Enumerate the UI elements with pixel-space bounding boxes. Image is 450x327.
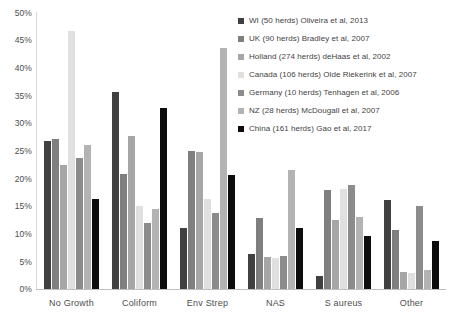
legend-swatch-icon xyxy=(238,126,244,132)
legend-swatch-icon xyxy=(238,72,244,78)
bar xyxy=(384,200,391,289)
legend-swatch-icon xyxy=(238,18,244,24)
bar xyxy=(432,241,439,289)
legend-label: Holland (274 herds) deHaas et al, 2002 xyxy=(249,52,391,61)
legend-item: Germany (10 herds) Tenhagen et al, 2006 xyxy=(238,84,448,101)
y-tick-label: 15% xyxy=(15,202,32,211)
y-tick-label: 0% xyxy=(20,285,33,294)
bar xyxy=(204,199,211,289)
bar xyxy=(356,217,363,289)
bar xyxy=(76,158,83,289)
bar xyxy=(332,220,339,289)
y-tick-label: 25% xyxy=(15,147,32,156)
bar xyxy=(188,151,195,290)
bar xyxy=(416,206,423,289)
bar xyxy=(348,185,355,289)
bar xyxy=(44,141,51,289)
bar xyxy=(228,175,235,289)
bar xyxy=(280,256,287,289)
y-tick-label: 20% xyxy=(15,175,32,184)
bar xyxy=(160,108,167,289)
legend-label: China (161 herds) Gao et al, 2017 xyxy=(249,124,372,133)
bar xyxy=(272,258,279,289)
legend-swatch-icon xyxy=(238,108,244,114)
legend-item: NZ (28 herds) McDougall et al, 2007 xyxy=(238,102,448,119)
bar xyxy=(288,170,295,289)
y-tick-label: 45% xyxy=(15,36,32,45)
bar xyxy=(340,189,347,289)
bar xyxy=(316,276,323,289)
bar xyxy=(144,223,151,289)
bar xyxy=(112,92,119,289)
y-tick-label: 40% xyxy=(15,64,32,73)
bar xyxy=(220,48,227,289)
legend-label: WI (50 herds) Oliveira et al, 2013 xyxy=(249,16,368,25)
y-tick-label: 10% xyxy=(15,230,32,239)
bar xyxy=(92,199,99,289)
bar xyxy=(424,270,431,289)
bar xyxy=(136,206,143,289)
bar xyxy=(248,254,255,289)
legend-swatch-icon xyxy=(238,90,244,96)
bar xyxy=(60,165,67,289)
bar xyxy=(196,152,203,289)
bar xyxy=(400,272,407,289)
legend-label: Canada (106 herds) Olde Riekerink et al,… xyxy=(249,70,417,79)
bar xyxy=(128,136,135,289)
y-tick-label: 30% xyxy=(15,119,32,128)
y-tick-label: 35% xyxy=(15,92,32,101)
bar xyxy=(364,236,371,289)
bar-chart: 50% 45% 40% 35% 30% 25% 20% 15% 10% 5% 0… xyxy=(0,0,450,327)
legend-item: WI (50 herds) Oliveira et al, 2013 xyxy=(238,12,448,29)
bar xyxy=(84,145,91,289)
x-tick-label-other: Other xyxy=(367,298,450,308)
y-axis: 50% 45% 40% 35% 30% 25% 20% 15% 10% 5% 0… xyxy=(0,0,34,300)
bar xyxy=(296,228,303,289)
bar xyxy=(264,257,271,289)
legend-item: Holland (274 herds) deHaas et al, 2002 xyxy=(238,48,448,65)
legend-item: UK (90 herds) Bradley et al, 2007 xyxy=(238,30,448,47)
legend-label: UK (90 herds) Bradley et al, 2007 xyxy=(249,34,369,43)
bar xyxy=(120,174,127,289)
x-axis-line xyxy=(36,289,446,290)
bar xyxy=(68,31,75,289)
bar xyxy=(212,213,219,289)
bar xyxy=(324,190,331,289)
bar xyxy=(392,230,399,289)
y-tick-label: 50% xyxy=(15,9,32,18)
legend-swatch-icon xyxy=(238,54,244,60)
legend: WI (50 herds) Oliveira et al, 2013 UK (9… xyxy=(238,12,448,138)
legend-item: Canada (106 herds) Olde Riekerink et al,… xyxy=(238,66,448,83)
bar xyxy=(152,209,159,289)
legend-item: China (161 herds) Gao et al, 2017 xyxy=(238,120,448,137)
y-axis-line xyxy=(36,12,37,290)
bar xyxy=(408,273,415,289)
x-axis: No Growth Coliform Env Strep NAS S aureu… xyxy=(36,298,446,318)
legend-swatch-icon xyxy=(238,36,244,42)
bar xyxy=(180,228,187,289)
legend-label: Germany (10 herds) Tenhagen et al, 2006 xyxy=(249,88,399,97)
y-tick-label: 5% xyxy=(20,258,33,267)
legend-label: NZ (28 herds) McDougall et al, 2007 xyxy=(249,106,380,115)
bar xyxy=(52,139,59,289)
bar xyxy=(256,218,263,289)
